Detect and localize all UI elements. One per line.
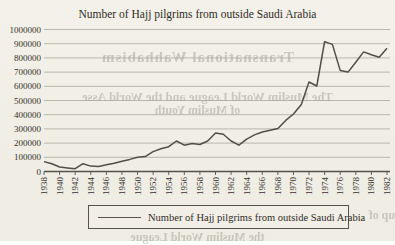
y-axis-tick-label: 300000 bbox=[14, 124, 42, 134]
y-axis-tick-label: 500000 bbox=[14, 96, 42, 106]
x-axis-tick-label: 1982 bbox=[382, 177, 392, 195]
y-axis-tick-label: 400000 bbox=[14, 110, 42, 120]
x-axis-tick-label: 1940 bbox=[55, 177, 65, 196]
series-line bbox=[44, 42, 387, 169]
y-axis-tick-label: 600000 bbox=[14, 81, 42, 91]
x-axis-tick-label: 1964 bbox=[242, 177, 252, 196]
y-axis-tick-label: 700000 bbox=[14, 67, 42, 77]
x-axis-tick-label: 1968 bbox=[273, 177, 283, 196]
x-axis-tick-label: 1938 bbox=[39, 177, 49, 196]
x-axis-tick-label: 1952 bbox=[148, 177, 158, 195]
x-axis-tick-label: 1970 bbox=[288, 177, 298, 196]
y-axis-tick-label: 100000 bbox=[14, 152, 42, 162]
x-axis-tick-label: 1978 bbox=[351, 177, 361, 196]
x-axis-tick-label: 1966 bbox=[257, 177, 267, 196]
x-axis-tick-label: 1980 bbox=[366, 177, 376, 196]
x-axis-tick-label: 1946 bbox=[101, 177, 111, 196]
y-axis-tick-label: 0 bbox=[37, 167, 42, 177]
x-axis-tick-label: 1976 bbox=[335, 177, 345, 196]
x-axis-tick-label: 1972 bbox=[304, 177, 314, 195]
y-axis-tick-label: 900000 bbox=[14, 39, 42, 49]
y-axis-tick-label: 200000 bbox=[14, 138, 42, 148]
x-axis-tick-label: 1950 bbox=[133, 177, 143, 196]
x-axis-tick-label: 1960 bbox=[211, 177, 221, 196]
x-axis-tick-label: 1956 bbox=[179, 177, 189, 196]
legend-label: Number of Hajj pilgrims from outside Sau… bbox=[148, 212, 365, 223]
x-axis-tick-label: 1944 bbox=[86, 177, 96, 196]
chart-legend: Number of Hajj pilgrims from outside Sau… bbox=[88, 205, 349, 229]
y-axis-tick-label: 1000000 bbox=[10, 25, 42, 35]
x-axis-tick-label: 1958 bbox=[195, 177, 205, 196]
legend-line-sample-icon bbox=[98, 217, 141, 218]
x-axis-tick-label: 1954 bbox=[164, 177, 174, 196]
x-axis-tick-label: 1942 bbox=[70, 177, 80, 195]
x-axis-tick-label: 1962 bbox=[226, 177, 236, 195]
x-axis-tick-label: 1948 bbox=[117, 177, 127, 196]
y-axis-tick-label: 800000 bbox=[14, 53, 42, 63]
x-axis-tick-label: 1974 bbox=[320, 177, 330, 196]
